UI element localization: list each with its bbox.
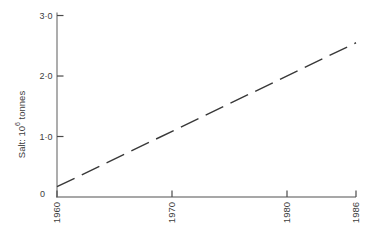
- series-salt-production-trend: [57, 43, 356, 187]
- y-axis-label-prefix: Salt: 10: [16, 126, 27, 158]
- y-axis-label-suffix: tonnes: [16, 91, 27, 122]
- x-tick-label: 1980: [281, 202, 292, 223]
- x-tick-label: 1986: [350, 202, 361, 223]
- y-axis-label-superscript: 6: [14, 122, 21, 126]
- x-tick-label: 1960: [51, 202, 62, 223]
- y-tick-label: 0: [40, 189, 45, 199]
- y-axis-label: Salt: 106 tonnes: [14, 75, 29, 175]
- x-tick-label: 1970: [166, 202, 177, 223]
- y-tick-label: 3·0: [39, 11, 52, 21]
- chart-canvas: 3·02·01·001960197019801986: [0, 0, 375, 234]
- salt-production-chart: 3·02·01·001960197019801986 Salt: 106 ton…: [0, 0, 375, 234]
- y-tick-label: 2·0: [39, 71, 52, 81]
- y-tick-label: 1·0: [39, 132, 52, 142]
